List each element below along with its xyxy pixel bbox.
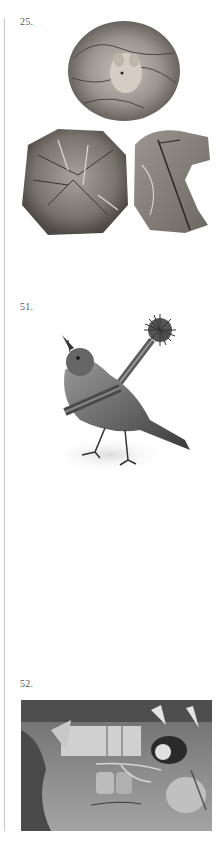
plate-25-open-leaf-ball-right (130, 125, 212, 237)
plate-number-25: 25. (20, 16, 33, 27)
plate-number-51: 51. (20, 301, 33, 312)
plate-52-interior-scene-illustration (21, 700, 212, 831)
left-margin-rule (4, 18, 5, 831)
plate-25-open-leaf-ball-left (18, 125, 130, 237)
plate-25-nest-illustration (64, 18, 184, 124)
plate-51-bird-with-brush-illustration (40, 300, 210, 480)
plate-number-52: 52. (20, 678, 33, 689)
